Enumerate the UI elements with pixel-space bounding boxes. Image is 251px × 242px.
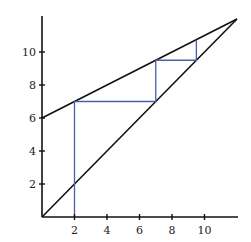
cobweb-chart: 246810246810 [0, 0, 251, 242]
y-tick-label: 2 [29, 178, 36, 191]
y-tick-label: 4 [29, 145, 36, 158]
function-lines [42, 19, 237, 217]
x-tick-label: 2 [71, 224, 78, 237]
x-tick-label: 8 [169, 224, 176, 237]
x-tick-label: 4 [104, 224, 111, 237]
x-tick-label: 10 [198, 224, 212, 237]
cobweb-path [75, 40, 197, 217]
y-tick-label: 8 [29, 79, 36, 92]
identity-line [42, 19, 237, 217]
y-tick-label: 10 [22, 46, 36, 59]
y-tick-label: 6 [29, 112, 36, 125]
cobweb-polyline [75, 40, 197, 217]
linear-function-line [42, 19, 237, 118]
x-tick-label: 6 [136, 224, 143, 237]
